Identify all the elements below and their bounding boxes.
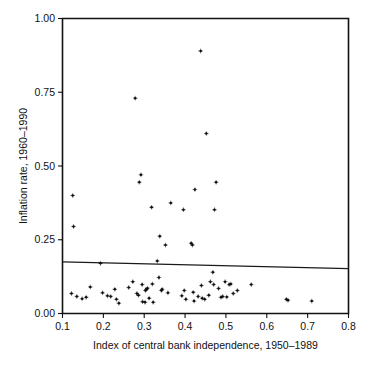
data-point: [206, 293, 211, 298]
data-point: [117, 301, 122, 306]
x-axis-title: Index of central bank independence, 1950…: [93, 339, 318, 351]
y-tick-label: 0.75: [35, 86, 56, 98]
data-point: [208, 279, 213, 284]
y-tick-label: 0.00: [35, 307, 56, 319]
data-point: [249, 282, 254, 287]
data-point: [168, 201, 173, 206]
data-point: [193, 187, 198, 192]
x-tick-label: 0.6: [259, 320, 274, 332]
data-point: [143, 300, 148, 305]
data-point: [140, 282, 145, 287]
data-point: [149, 205, 154, 210]
data-point: [184, 297, 189, 302]
data-point: [150, 282, 155, 287]
data-point: [191, 290, 196, 295]
data-point: [204, 131, 209, 136]
data-point: [100, 291, 105, 296]
data-point: [88, 285, 93, 290]
data-point: [130, 279, 135, 284]
x-tick-label: 0.5: [219, 320, 234, 332]
data-point: [180, 294, 185, 299]
data-point: [147, 296, 152, 301]
x-tick-label: 0.8: [341, 320, 356, 332]
data-point: [216, 286, 221, 291]
x-tick-label: 0.2: [96, 320, 111, 332]
data-point: [192, 299, 197, 304]
data-point: [75, 294, 80, 299]
data-point: [181, 207, 186, 212]
plot-canvas: 0.000.250.500.751.000.10.20.30.40.50.60.…: [0, 0, 366, 367]
data-point: [196, 294, 201, 299]
y-tick-label: 0.50: [35, 160, 56, 172]
scatter-plot-figure: 0.000.250.500.751.000.10.20.30.40.50.60.…: [0, 0, 366, 367]
data-point: [166, 291, 171, 296]
x-tick-label: 0.4: [178, 320, 193, 332]
data-point: [157, 275, 162, 280]
data-point: [223, 279, 228, 284]
x-tick-label: 0.1: [55, 320, 70, 332]
data-point: [112, 287, 117, 292]
data-point: [139, 173, 144, 178]
data-point: [114, 297, 119, 302]
data-point: [211, 270, 216, 275]
data-point: [198, 49, 203, 54]
x-tick-label: 0.3: [137, 320, 152, 332]
data-point: [80, 296, 85, 301]
y-tick-label: 1.00: [35, 12, 56, 24]
data-point: [126, 285, 131, 290]
data-point: [309, 299, 314, 304]
y-tick-label: 0.25: [35, 233, 56, 245]
data-point: [214, 180, 219, 185]
data-point: [151, 300, 156, 305]
data-point: [212, 207, 217, 212]
fitted-reference-line: [63, 262, 349, 269]
data-point: [231, 291, 236, 296]
data-point: [84, 295, 89, 300]
plot-frame: [63, 19, 349, 314]
data-point: [199, 283, 204, 288]
data-point: [69, 291, 74, 296]
data-point: [235, 288, 240, 293]
x-tick-label: 0.7: [300, 320, 315, 332]
y-axis-title: Inflation rate, 1960–1990: [17, 108, 29, 224]
data-point: [182, 288, 187, 293]
data-point: [98, 261, 103, 266]
data-point: [137, 180, 142, 185]
data-point: [71, 224, 76, 229]
data-point: [133, 96, 138, 101]
data-point: [163, 243, 168, 248]
data-point: [155, 259, 160, 264]
data-point: [70, 193, 75, 198]
data-point: [105, 294, 110, 299]
data-point: [224, 295, 229, 300]
data-point: [157, 234, 162, 239]
data-point: [108, 294, 113, 299]
data-point: [211, 282, 216, 287]
